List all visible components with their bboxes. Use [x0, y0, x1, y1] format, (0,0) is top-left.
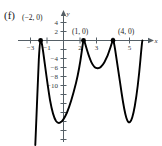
plot-canvas: −3 −1 2 3 5 4 2 −4 −6 −8 −10 x y [0, 0, 162, 146]
y-axis-label: y [65, 10, 70, 18]
x-tick-label-minus-3: −3 [27, 44, 35, 52]
y-tick-label-minus-6: −6 [51, 64, 59, 72]
x-tick-label-3: 3 [95, 44, 99, 52]
root-point-one [81, 38, 86, 43]
x-tick-label-minus-1: −1 [43, 44, 51, 52]
root-point-minus-two [38, 38, 43, 43]
y-tick-label-2: 2 [55, 28, 59, 36]
y-tick-label-minus-8: −8 [51, 73, 59, 81]
y-tick-label-4: 4 [55, 19, 59, 27]
graph-figure: (f) (−2, 0) (1, 0) (4, 0) [0, 0, 162, 146]
x-axis-label: x [153, 37, 158, 45]
root-point-four [111, 38, 116, 43]
y-tick-label-minus-4: −4 [51, 55, 59, 63]
x-axis-arrow [148, 38, 154, 43]
y-axis-arrow [61, 10, 66, 16]
x-tick-label-5: 5 [128, 44, 132, 52]
